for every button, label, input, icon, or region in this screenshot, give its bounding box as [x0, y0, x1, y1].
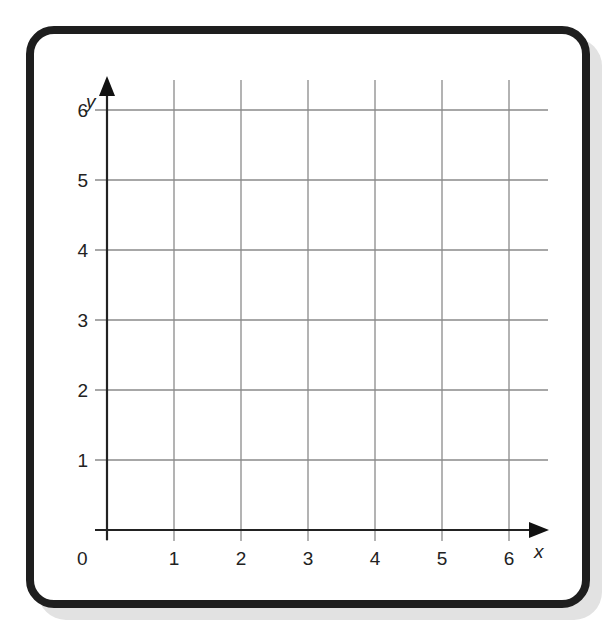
y-tick-label: 1 — [77, 450, 88, 471]
x-tick-label: 4 — [370, 548, 381, 569]
y-tick-label: 4 — [77, 240, 88, 261]
y-tick-label: 5 — [77, 170, 88, 191]
gridlines — [95, 80, 548, 541]
x-tick-label: 3 — [303, 548, 314, 569]
axes — [95, 76, 549, 540]
tick-labels: 123456123456 — [77, 100, 514, 569]
x-tick-label: 5 — [437, 548, 448, 569]
x-tick-label: 6 — [504, 548, 515, 569]
x-tick-label: 1 — [169, 548, 180, 569]
y-axis-label: y — [84, 91, 97, 112]
origin-label: 0 — [77, 548, 88, 569]
coordinate-grid: 123456123456 y x 0 — [0, 0, 610, 621]
x-axis-label: x — [533, 541, 545, 562]
y-tick-label: 2 — [77, 380, 88, 401]
x-axis-arrow-icon — [529, 522, 549, 538]
x-tick-label: 2 — [236, 548, 247, 569]
y-tick-label: 3 — [77, 310, 88, 331]
y-axis-arrow-icon — [99, 76, 115, 96]
